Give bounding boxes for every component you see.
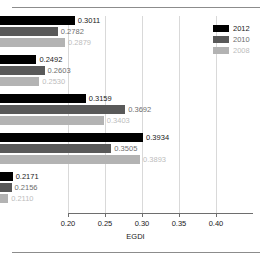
bar <box>0 55 36 64</box>
bottom-divider-rule <box>12 252 260 253</box>
bar-value-label: 0.3505 <box>114 144 137 153</box>
legend-label: 2008 <box>233 46 250 55</box>
bar <box>0 94 86 103</box>
legend-item: 2012 <box>213 24 250 33</box>
bar-group: Middle Africa0.24920.26030.2530 <box>0 55 185 88</box>
bar-group: Eastern Africa0.30110.27820.2879 <box>0 16 185 49</box>
bar-value-label: 0.2879 <box>68 38 91 47</box>
bar <box>0 133 143 142</box>
bar-row: 0.3893 <box>0 155 185 164</box>
bar-group: Southern Africa0.39340.35050.3893 <box>0 133 185 166</box>
bar-row: 0.2492 <box>0 55 185 64</box>
bar-value-label: 0.2156 <box>15 183 38 192</box>
x-axis-tick <box>179 213 180 217</box>
bar-row: 0.3934 <box>0 133 185 142</box>
bar <box>0 155 140 164</box>
x-axis-tick-label: 0.30 <box>135 219 150 228</box>
cropped-title-fragment <box>52 0 62 5</box>
bar <box>0 194 8 203</box>
bar <box>0 77 39 86</box>
bar-group: Northern Africa0.31590.36920.3403 <box>0 94 185 127</box>
bar-value-label: 0.3934 <box>146 133 169 142</box>
x-axis-label: EGDI <box>0 232 271 241</box>
bar-value-label: 0.2782 <box>61 27 84 36</box>
x-axis-tick <box>142 213 143 217</box>
x-axis-line <box>68 213 253 214</box>
bar-group: Western Africa0.21710.21560.2110 <box>0 172 185 205</box>
bar <box>0 16 75 25</box>
chart-figure: 0.200.250.300.350.40 EGDI 201220102008 E… <box>0 0 271 261</box>
bar-row: 0.3159 <box>0 94 185 103</box>
bar <box>0 27 58 36</box>
bar-value-label: 0.3159 <box>89 94 112 103</box>
x-axis-tick-label: 0.35 <box>172 219 187 228</box>
bar-row: 0.2171 <box>0 172 185 181</box>
bar-row: 0.2782 <box>0 27 185 36</box>
bar-row: 0.2530 <box>0 77 185 86</box>
x-axis-tick <box>105 213 106 217</box>
legend-swatch <box>213 36 229 43</box>
bar-row: 0.2110 <box>0 194 185 203</box>
legend-swatch <box>213 47 229 54</box>
bar-row: 0.3403 <box>0 116 185 125</box>
bar-value-label: 0.3893 <box>143 155 166 164</box>
bar-value-label: 0.2492 <box>39 55 62 64</box>
bar-value-label: 0.3403 <box>107 116 130 125</box>
bar <box>0 105 125 114</box>
x-axis-tick-label: 0.20 <box>61 219 76 228</box>
bar-row: 0.2156 <box>0 183 185 192</box>
bar-value-label: 0.2603 <box>48 66 71 75</box>
bar-row: 0.2603 <box>0 66 185 75</box>
legend-swatch <box>213 25 229 32</box>
bar-value-label: 0.2530 <box>42 77 65 86</box>
legend-label: 2012 <box>233 24 250 33</box>
bar-value-label: 0.2171 <box>16 172 39 181</box>
bar-row: 0.2879 <box>0 38 185 47</box>
legend-item: 2010 <box>213 35 250 44</box>
bar <box>0 183 12 192</box>
bar-row: 0.3505 <box>0 144 185 153</box>
x-axis-tick <box>68 213 69 217</box>
bar <box>0 144 111 153</box>
legend-label: 2010 <box>233 35 250 44</box>
x-axis-tick <box>216 213 217 217</box>
bar <box>0 38 65 47</box>
bar-row: 0.3011 <box>0 16 185 25</box>
bar-value-label: 0.2110 <box>11 194 33 203</box>
bar-value-label: 0.3692 <box>128 105 151 114</box>
bar-row: 0.3692 <box>0 105 185 114</box>
top-divider-rule <box>12 7 260 8</box>
bar <box>0 172 13 181</box>
bar-value-label: 0.3011 <box>78 16 100 25</box>
chart-legend: 201220102008 <box>213 24 250 57</box>
bar <box>0 66 45 75</box>
x-axis-tick-label: 0.25 <box>98 219 113 228</box>
legend-item: 2008 <box>213 46 250 55</box>
x-axis-tick-label: 0.40 <box>209 219 224 228</box>
bar <box>0 116 104 125</box>
